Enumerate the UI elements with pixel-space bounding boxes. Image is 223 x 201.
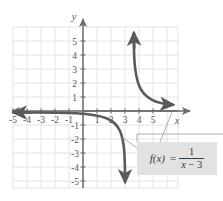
denominator-minus: −	[188, 159, 194, 170]
fraction-denominator: x − 3	[179, 159, 204, 171]
x-tick-label: -3	[37, 115, 45, 125]
fraction: 1 x − 3	[179, 147, 204, 171]
equals-sign: =	[170, 153, 176, 164]
y-tick-label: -1	[71, 121, 79, 131]
function-name: f(x)	[150, 153, 165, 164]
y-tick-label: -3	[71, 149, 79, 159]
x-tick-label: 4	[137, 115, 142, 125]
x-tick-label: 3	[123, 115, 128, 125]
y-tick-label: -5	[71, 177, 79, 187]
y-tick-label: 5	[72, 37, 77, 47]
denominator-variable: x	[181, 159, 186, 170]
function-formula: f(x) = 1 x − 3	[150, 147, 205, 171]
x-axis-label: x	[174, 115, 180, 126]
y-tick-label: 3	[72, 65, 77, 75]
y-tick-label: 2	[72, 79, 77, 89]
function-label-box: f(x) = 1 x − 3	[137, 142, 217, 175]
x-tick-label: -4	[23, 115, 31, 125]
fraction-numerator: 1	[186, 147, 197, 159]
graph-figure: -5 -4 -3 -2 -1 1 2 3 4 5 5 4 3 2 1 -1 -2…	[0, 0, 223, 201]
y-tick-label: -2	[71, 135, 79, 145]
x-tick-label: 5	[151, 115, 156, 125]
denominator-constant: 3	[197, 159, 202, 170]
x-tick-label: -2	[51, 115, 59, 125]
y-tick-label: 1	[72, 93, 77, 103]
y-axis-label: y	[71, 11, 77, 22]
x-tick-label: -5	[9, 115, 17, 125]
y-tick-label: -4	[71, 163, 79, 173]
y-tick-label: 4	[72, 51, 77, 61]
